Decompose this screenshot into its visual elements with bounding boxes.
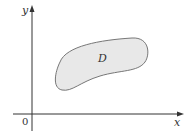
region-label: D (97, 52, 107, 65)
diagram: y x 0 D (0, 0, 191, 139)
x-axis-label: x (174, 116, 181, 129)
origin-label: 0 (22, 116, 28, 127)
y-axis-arrow-icon (30, 5, 35, 12)
y-axis-label: y (21, 4, 29, 17)
